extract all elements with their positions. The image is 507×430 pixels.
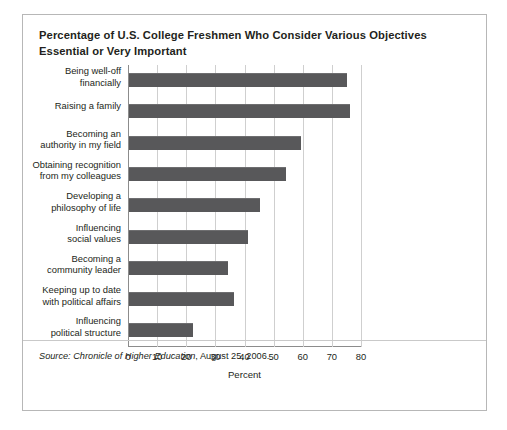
chart-title: Percentage of U.S. College Freshmen Who … [39, 28, 459, 59]
bar-row: Influencing social values [128, 222, 361, 253]
source-date: , August 25, 2006. [195, 351, 269, 361]
bar [129, 261, 228, 275]
x-tick-label-80: 80 [356, 351, 366, 362]
bar [129, 167, 286, 181]
category-label: Raising a family [0, 96, 121, 112]
bar-row: Being well-off financially [128, 65, 361, 96]
bar-chart-plot: Being well-off financiallyRaising a fami… [128, 65, 361, 347]
x-tick-label-50: 50 [268, 351, 278, 362]
bar [129, 104, 350, 118]
x-tick-label-70: 70 [327, 351, 337, 362]
chart-plot-area: Being well-off financiallyRaising a fami… [23, 59, 488, 369]
bar [129, 323, 193, 337]
bar-row: Influencing political structure [128, 315, 361, 346]
source-publication: Chronicle of Higher Education [73, 351, 195, 361]
bar-row: Becoming an authority in my field [128, 128, 361, 159]
x-axis-label: Percent [128, 369, 361, 380]
bar-row: Keeping up to date with political affair… [128, 284, 361, 315]
bar [129, 292, 234, 306]
bar-row: Obtaining recognition from my colleagues [128, 159, 361, 190]
gridline-80 [361, 65, 362, 347]
bar-row: Raising a family [128, 96, 361, 127]
bar-row: Becoming a community leader [128, 253, 361, 284]
category-label: Influencing political structure [0, 315, 121, 338]
category-label: Influencing social values [0, 222, 121, 245]
source-prefix: Source: [39, 351, 71, 361]
figure-container: Percentage of U.S. College Freshmen Who … [22, 14, 487, 411]
source-divider [23, 340, 486, 341]
bar-row: Developing a philosophy of life [128, 190, 361, 221]
category-label: Keeping up to date with political affair… [0, 284, 121, 307]
bar [129, 136, 301, 150]
bar [129, 73, 347, 87]
category-label: Being well-off financially [0, 65, 121, 88]
category-label: Becoming a community leader [0, 253, 121, 276]
bar-rows: Being well-off financiallyRaising a fami… [128, 65, 361, 347]
bar [129, 198, 260, 212]
category-label: Obtaining recognition from my colleagues [0, 159, 121, 182]
source-note: Source: Chronicle of Higher Education, A… [39, 351, 269, 361]
bar [129, 230, 248, 244]
x-tick-label-60: 60 [298, 351, 308, 362]
category-label: Developing a philosophy of life [0, 190, 121, 213]
category-label: Becoming an authority in my field [0, 128, 121, 151]
